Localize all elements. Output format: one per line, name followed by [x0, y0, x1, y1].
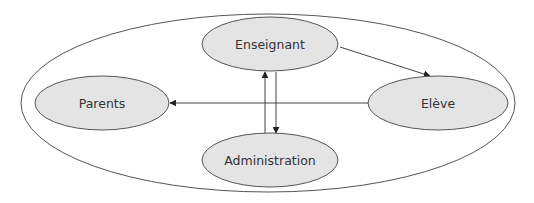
node-parents: Parents — [35, 76, 169, 130]
node-administration: Administration — [202, 133, 338, 187]
node-eleve-label: Elève — [421, 96, 455, 111]
relationship-diagram: Enseignant Parents Elève Administration — [0, 0, 534, 203]
node-administration-label: Administration — [224, 153, 315, 168]
node-enseignant-label: Enseignant — [235, 37, 305, 52]
node-eleve: Elève — [368, 76, 508, 130]
node-enseignant: Enseignant — [202, 17, 338, 71]
node-parents-label: Parents — [79, 96, 126, 111]
